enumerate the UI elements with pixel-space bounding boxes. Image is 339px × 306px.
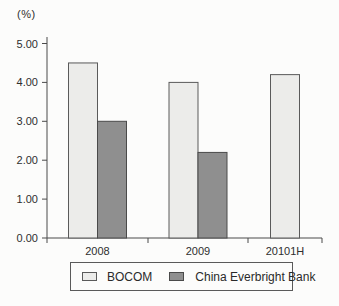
- svg-text:3.00: 3.00: [17, 115, 38, 127]
- chart-page: (%) 0.001.002.003.004.005.00200820092010…: [0, 0, 339, 306]
- bar-chart-canvas: 0.001.002.003.004.005.002008200920101H: [0, 0, 339, 306]
- legend-swatch-china-everbright-bank: [169, 272, 184, 281]
- svg-text:2.00: 2.00: [17, 154, 38, 166]
- legend-label-china-everbright-bank: China Everbright Bank: [195, 270, 315, 284]
- svg-text:4.00: 4.00: [17, 76, 38, 88]
- legend-swatch-bocom: [82, 272, 97, 281]
- svg-text:1.00: 1.00: [17, 193, 38, 205]
- svg-text:5.00: 5.00: [17, 38, 38, 50]
- svg-text:20101H: 20101H: [266, 245, 305, 257]
- svg-text:2009: 2009: [186, 245, 210, 257]
- legend-label-bocom: BOCOM: [107, 270, 152, 284]
- svg-text:2008: 2008: [85, 245, 109, 257]
- svg-text:0.00: 0.00: [17, 232, 38, 244]
- chart-legend: BOCOM China Everbright Bank: [70, 262, 293, 291]
